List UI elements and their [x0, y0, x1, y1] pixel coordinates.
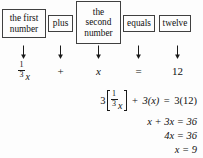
step1-plus: +: [132, 95, 138, 106]
step1-second-term: 3(x): [142, 95, 159, 106]
step1-right-side: 3(12): [174, 95, 197, 106]
phrase-box-plus: plus: [48, 15, 73, 32]
phrase-box-twelve: twelve: [159, 15, 191, 32]
down-arrow-icon-4: [133, 45, 144, 59]
equation-term-twelve: 12: [167, 60, 188, 82]
solution-step-2: x + 3x = 36: [147, 114, 197, 128]
fraction-numerator: 1: [19, 61, 25, 70]
phrase-box-first-number-label: the first number: [10, 13, 39, 34]
phrase-box-equals-label: equals: [127, 18, 151, 29]
fraction-denominator: 3: [19, 71, 25, 80]
solution-step-3: 4x = 36: [164, 128, 197, 142]
step1-fraction-numerator: 1: [111, 90, 117, 99]
phrase-box-twelve-label: twelve: [163, 18, 188, 29]
phrase-box-equals: equals: [123, 15, 155, 32]
step1-fraction-denominator: 3: [111, 100, 117, 109]
phrase-box-first-number: the first number: [2, 9, 46, 38]
equation-term-first-number: 1 3 x: [8, 60, 40, 82]
solution-step-4: x = 9: [175, 142, 197, 156]
down-arrow-icon-2: [55, 45, 66, 59]
down-arrow-icon-1: [18, 45, 29, 59]
step1-coefficient: 3: [100, 95, 105, 106]
step1-equals: =: [164, 95, 170, 106]
fraction-variable: x: [26, 71, 30, 82]
equation-term-second-number: x: [88, 60, 109, 82]
bracket-open-icon: [107, 90, 110, 111]
algebra-translation-figure: the first number plus the second number …: [0, 0, 203, 158]
step1-fraction-group: 1 3 x: [111, 91, 123, 109]
phrase-box-second-number-label: the second number: [84, 7, 112, 39]
fraction-one-third: 1 3: [18, 61, 25, 79]
down-arrow-icon-3: [93, 45, 104, 59]
step1-fraction-variable: x: [118, 100, 122, 111]
solution-step-1: 3 1 3 x + 3(x) = 3(12): [100, 88, 197, 112]
down-arrow-icon-5: [172, 45, 183, 59]
step1-fraction: 1 3: [111, 90, 118, 108]
fraction-one-third-x: 1 3 x: [18, 62, 30, 80]
bracket-close-icon: [124, 90, 127, 111]
phrase-box-second-number: the second number: [76, 1, 121, 44]
equation-term-plus: +: [50, 60, 71, 82]
equation-term-equals: =: [128, 60, 149, 82]
phrase-box-plus-label: plus: [53, 18, 69, 29]
